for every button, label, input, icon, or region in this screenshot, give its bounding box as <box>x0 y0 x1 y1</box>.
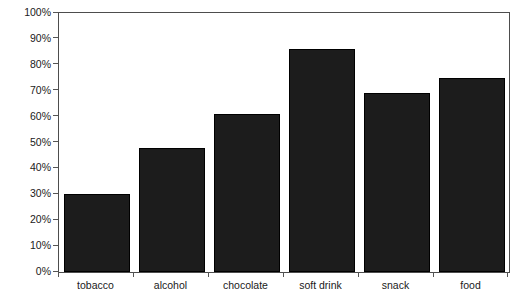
y-axis-tick: 90% <box>0 31 58 45</box>
x-axis-tick-mark <box>133 272 134 277</box>
y-axis-tick: 50% <box>0 135 58 149</box>
x-axis-tick-mark <box>283 272 284 277</box>
bar-slot <box>209 13 284 272</box>
bar-snack[interactable] <box>364 93 430 272</box>
bar-tobacco[interactable] <box>64 194 130 272</box>
x-axis-label-chocolate: chocolate <box>208 279 283 291</box>
x-axis-tick-mark <box>58 272 59 277</box>
y-axis-tick: 40% <box>0 160 58 174</box>
x-axis-ticks <box>58 272 508 277</box>
bar-food[interactable] <box>439 78 505 272</box>
bar-slot <box>59 13 134 272</box>
bars-layer <box>59 13 509 272</box>
y-axis-tick: 20% <box>0 212 58 226</box>
x-axis-label-soft-drink: soft drink <box>283 279 358 291</box>
x-axis-tick-mark <box>433 272 434 277</box>
bar-slot <box>284 13 359 272</box>
y-axis-tick: 10% <box>0 238 58 252</box>
bar-slot <box>434 13 509 272</box>
y-axis-tick: 60% <box>0 109 58 123</box>
x-axis-tick-mark <box>507 272 508 277</box>
bar-soft-drink[interactable] <box>289 49 355 272</box>
y-axis-tick: 70% <box>0 83 58 97</box>
bar-slot <box>134 13 209 272</box>
x-axis-label-alcohol: alcohol <box>133 279 208 291</box>
bar-chart: 100% 90% 80% 70% 60% 50% 40% 30% <box>0 0 522 304</box>
bar-alcohol[interactable] <box>139 148 205 272</box>
x-axis-labels: tobacco alcohol chocolate soft drink sna… <box>58 279 508 291</box>
y-axis-tick: 0% <box>0 264 58 278</box>
x-axis: tobacco alcohol chocolate soft drink sna… <box>58 272 508 304</box>
y-axis-tick: 30% <box>0 186 58 200</box>
y-axis-tick: 80% <box>0 57 58 71</box>
x-axis-label-snack: snack <box>358 279 433 291</box>
x-axis-tick-mark <box>208 272 209 277</box>
y-axis: 100% 90% 80% 70% 60% 50% 40% 30% <box>0 0 58 304</box>
bar-slot <box>359 13 434 272</box>
x-axis-tick-mark <box>358 272 359 277</box>
plot-area <box>58 12 510 273</box>
y-axis-tick: 100% <box>0 5 58 19</box>
bar-chocolate[interactable] <box>214 114 280 272</box>
x-axis-label-tobacco: tobacco <box>58 279 133 291</box>
x-axis-label-food: food <box>433 279 508 291</box>
